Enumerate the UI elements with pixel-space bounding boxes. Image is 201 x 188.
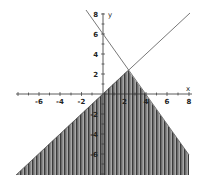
y-tick-label: -4 <box>90 131 98 139</box>
x-tick-label: 2 <box>122 98 127 106</box>
y-tick-label: 8 <box>93 11 98 19</box>
y-tick-label: 2 <box>93 71 98 79</box>
inequality-graph: -6 -4 -2 2 4 6 8 8 6 4 2 -2 -4 -6 y x <box>0 0 201 188</box>
y-tick-label: -2 <box>90 111 98 119</box>
x-tick-label: 6 <box>165 98 170 106</box>
x-tick-label: -2 <box>78 98 86 106</box>
y-axis-label: y <box>108 11 112 19</box>
shaded-region <box>16 70 189 175</box>
x-tick-label: 4 <box>144 98 149 106</box>
y-tick-label: -6 <box>90 151 98 159</box>
y-tick-label: 4 <box>93 51 98 59</box>
x-tick-label: -6 <box>35 98 43 106</box>
x-tick-label: 8 <box>187 98 192 106</box>
x-axis-label: x <box>186 85 190 93</box>
y-tick-labels: 8 6 4 2 -2 -4 -6 <box>90 11 98 159</box>
y-tick-label: 6 <box>93 31 98 39</box>
x-tick-label: -4 <box>56 98 64 106</box>
